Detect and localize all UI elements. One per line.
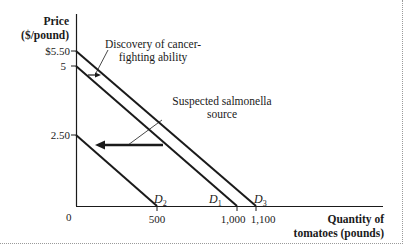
curve-subscript: 3 — [263, 199, 267, 208]
demand-curve-d1 — [76, 66, 237, 206]
curve-letter: D — [154, 192, 163, 206]
curve-label-d1: D1 — [209, 193, 222, 210]
salmonella-annotation: Suspected salmonella source — [164, 95, 280, 121]
salmonella-annotation-leader — [128, 120, 162, 145]
curve-label-d3: D3 — [254, 193, 267, 210]
x-axis-title: Quantity of tomatoes (pounds) — [280, 212, 384, 240]
x-tick-label-500: 500 — [146, 213, 168, 225]
y-axis-title: Price ($/pound) — [6, 14, 69, 42]
rightward-arrowhead-icon — [95, 73, 101, 78]
leftward-arrowhead-icon — [95, 141, 105, 150]
demand-curve-d3 — [76, 51, 256, 206]
curve-letter: D — [254, 192, 263, 206]
x-tick-label-1100: 1,100 — [248, 213, 278, 225]
cancer-discovery-annotation: Discovery of cancer- fighting ability — [100, 38, 206, 64]
y-axis-title-line2: ($/pound) — [6, 28, 69, 42]
y-tick-label-250: 2.50 — [30, 129, 70, 141]
y-tick-label-5: 5 — [30, 60, 66, 72]
curve-label-d2: D2 — [154, 193, 167, 210]
curve-letter: D — [209, 192, 218, 206]
cancer-annotation-line2: fighting ability — [100, 51, 206, 64]
curve-subscript: 1 — [218, 199, 222, 208]
x-axis-title-line1: Quantity of — [280, 212, 384, 226]
salmonella-annotation-line1: Suspected salmonella — [164, 95, 280, 108]
cancer-annotation-line1: Discovery of cancer- — [100, 38, 206, 51]
y-tick-label-550: $5.50 — [30, 45, 70, 57]
x-axis-title-line2: tomatoes (pounds) — [280, 226, 384, 240]
origin-label: 0 — [66, 211, 72, 223]
salmonella-annotation-line2: source — [164, 108, 280, 121]
y-axis-title-line1: Price — [6, 14, 69, 28]
x-tick-label-1000: 1,000 — [217, 213, 249, 225]
curve-subscript: 2 — [163, 199, 167, 208]
